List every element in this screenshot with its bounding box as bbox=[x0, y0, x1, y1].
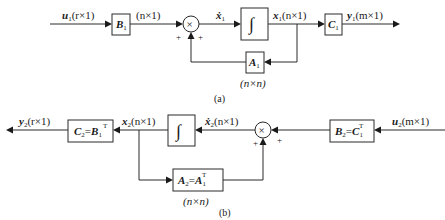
multiply-icon: × bbox=[259, 124, 265, 136]
plus-sign-bottom: + bbox=[253, 138, 258, 148]
arrow-head-icon bbox=[234, 21, 241, 28]
input-u2-label: u2(m×1) bbox=[392, 115, 430, 129]
arrow-head-icon bbox=[374, 127, 381, 134]
arrow-head-icon bbox=[260, 138, 267, 145]
arrow-head-icon bbox=[264, 59, 271, 66]
arrow-head-icon bbox=[113, 127, 120, 134]
arrow-head-icon bbox=[176, 21, 183, 28]
arrow-head-icon bbox=[393, 21, 400, 28]
caption-b: (b) bbox=[219, 207, 231, 219]
block-a1-dim: (n×n) bbox=[240, 77, 266, 90]
diagram-a: u1(r×1) B1 (n×1) × + + ẋ1 ∫ x1(n×1) C1 y… bbox=[50, 8, 400, 105]
arrow-head-icon bbox=[6, 127, 13, 134]
arrow-head-icon bbox=[166, 177, 173, 184]
arrow-head-icon bbox=[105, 21, 112, 28]
plus-sign-left: + bbox=[176, 32, 181, 42]
diagram-b: y2(r×1) C2=B1T x2(n×1) ∫ ẋ2(n×1) × + + B… bbox=[6, 115, 445, 219]
block-diagram-canvas: u1(r×1) B1 (n×1) × + + ẋ1 ∫ x1(n×1) C1 y… bbox=[0, 0, 445, 220]
arrow-head-icon bbox=[271, 127, 278, 134]
integrator-block-a[interactable] bbox=[241, 8, 268, 40]
arrow-head-icon bbox=[195, 127, 202, 134]
input-u1-label: u1(r×1) bbox=[62, 9, 95, 23]
output-y2-label: y2(r×1) bbox=[17, 115, 50, 129]
caption-a: (a) bbox=[214, 93, 225, 105]
plus-sign-bottom: + bbox=[198, 32, 203, 42]
block-a2-dim: (n×n) bbox=[183, 195, 209, 208]
arrow-head-icon bbox=[188, 32, 195, 39]
xdot2-label: ẋ2(n×1) bbox=[204, 115, 239, 129]
block-b2-label: B2=C1T bbox=[334, 122, 364, 139]
xdot1-label: ẋ1 bbox=[215, 9, 226, 23]
multiply-icon: × bbox=[187, 18, 193, 30]
b1-out-dim-label: (n×1) bbox=[136, 9, 161, 22]
arrow-head-icon bbox=[318, 21, 325, 28]
branch-to-a2-line bbox=[139, 130, 169, 180]
state-x1-label: x1(n×1) bbox=[272, 9, 307, 23]
integrator-block-b[interactable] bbox=[168, 115, 195, 146]
plus-sign-right: + bbox=[277, 135, 282, 145]
state-x2-label: x2(n×1) bbox=[121, 115, 156, 129]
output-y1-label: y1(m×1) bbox=[345, 9, 383, 23]
feedback-branch-line bbox=[268, 24, 297, 62]
block-a2-label: A2=A1T bbox=[177, 171, 207, 188]
